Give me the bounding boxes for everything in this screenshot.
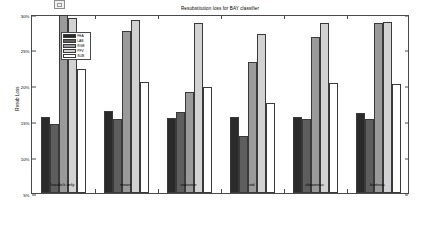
legend-label: FEA [77,34,84,38]
bar [140,82,149,192]
legend-item[interactable]: PFV [63,48,89,53]
bar [248,62,257,192]
chart-title: Resubstitution loss for BAY classifier [31,6,409,11]
legend-swatch [63,49,76,53]
y-tick-mark-right [405,122,409,123]
bar [176,112,185,193]
y-axis-label: Resub Loss [15,69,20,129]
x-tick-mark-top [284,16,285,20]
y-tick-mark [32,15,36,16]
legend[interactable]: FEALABRGBPFVSUB [61,32,91,61]
y-tick-label: 25% [21,49,30,54]
y-tick-mark-right [405,51,409,52]
bar [122,31,131,193]
legend-label: LAB [77,39,83,43]
y-tick-mark-right [405,194,409,195]
x-tick-label: kurtosis [370,182,385,187]
y-tick-mark [32,194,36,195]
x-tick-label: std [249,182,255,187]
x-tick-label: skewness [305,182,324,187]
bar [167,118,176,192]
bar [239,136,248,193]
y-tick-mark [32,158,36,159]
x-tick-mark-bottom [221,189,222,193]
bar [311,37,320,192]
legend-item[interactable]: LAB [63,38,89,43]
y-tick-label: 15% [21,120,30,125]
y-tick-mark-right [405,158,409,159]
legend-swatch [63,54,76,58]
bar [293,117,302,193]
x-tick-label: variance [180,182,196,187]
x-tick-mark-top [95,16,96,20]
x-tick-label: haralick only [51,182,75,187]
bar [329,83,338,193]
legend-swatch [63,44,76,48]
x-tick-mark-top [221,16,222,20]
y-tick-mark [32,87,36,88]
x-tick-mark-bottom [284,189,285,193]
bar [230,117,239,192]
bar [41,117,50,193]
y-tick-mark [32,122,36,123]
bar [392,84,401,192]
bar [374,23,383,193]
x-tick-mark-bottom [95,189,96,193]
plot-axes: 5%10%15%20%25%30% FEALABRGBPFVSUB [31,15,409,194]
y-tick-label: 5% [23,192,29,197]
bar [185,92,194,193]
legend-swatch [63,34,76,38]
legend-label: RGB [77,44,84,48]
x-tick-mark-top [347,16,348,20]
bar [131,20,140,193]
y-tick-mark [32,51,36,52]
y-tick-mark-right [405,87,409,88]
legend-item[interactable]: FEA [63,34,89,39]
bar [77,69,86,193]
y-tick-label: 30% [21,13,30,18]
x-tick-mark-bottom [347,189,348,193]
bar [383,22,392,192]
x-tick-label: mean [120,182,131,187]
y-tick-label: 10% [21,156,30,161]
legend-item[interactable]: SUB [63,53,89,58]
legend-item[interactable]: RGB [63,43,89,48]
bar [266,103,275,193]
legend-label: SUB [77,54,84,58]
y-tick-label: 20% [21,85,30,90]
y-tick-mark-right [405,15,409,16]
chart-window: Resubstitution loss for BAY classifier R… [0,0,421,231]
bar [257,34,266,193]
x-tick-mark-bottom [158,189,159,193]
bar [194,23,203,193]
bar [104,111,113,193]
bar [320,23,329,193]
legend-label: PFV [77,49,84,53]
legend-swatch [63,39,76,43]
figure-canvas: Resubstitution loss for BAY classifier R… [0,0,421,231]
bar [356,113,365,192]
x-tick-mark-top [158,16,159,20]
bar [203,87,212,193]
